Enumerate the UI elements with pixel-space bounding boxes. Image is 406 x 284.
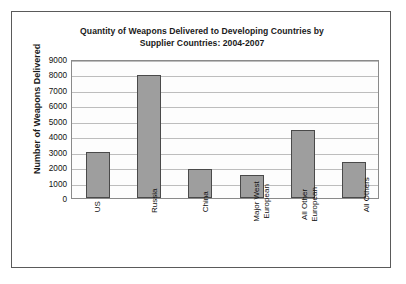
x-axis-tick-label: Major WestEuropean <box>225 201 276 265</box>
y-axis-tick-label: 5000 <box>49 117 67 126</box>
chart-figure: Quantity of Weapons Delivered to Develop… <box>11 11 391 268</box>
x-axis-tick-label: All OtherEuropean <box>276 201 327 265</box>
y-axis-tick-label: 9000 <box>49 56 67 65</box>
x-axis-tick-label: US <box>71 201 122 265</box>
y-axis-tick-label: 3000 <box>49 148 67 157</box>
y-axis-tick-label: 2000 <box>49 164 67 173</box>
bar <box>137 75 161 198</box>
x-axis-tick-label: All Others <box>328 201 379 265</box>
y-axis-tick-label: 7000 <box>49 86 67 95</box>
chart-title-line-2: Supplier Countries: 2004-2007 <box>30 38 374 50</box>
y-axis-tick-label: 0 <box>62 195 67 204</box>
x-axis-tick-label: Russia <box>122 201 173 265</box>
x-axis-tick-labels: USRussiaChinaMajor WestEuropeanAll Other… <box>71 201 379 267</box>
bar-series <box>72 61 378 198</box>
y-axis-tick-label: 8000 <box>49 71 67 80</box>
chart-title-line-1: Quantity of Weapons Delivered to Develop… <box>80 26 324 36</box>
chart-title: Quantity of Weapons Delivered to Develop… <box>30 26 374 49</box>
x-axis-tick-label: China <box>174 201 225 265</box>
bar <box>86 152 110 198</box>
y-axis-tick-labels: 9000800070006000500040003000200010000 <box>30 60 67 199</box>
y-axis-tick-label: 4000 <box>49 133 67 142</box>
y-axis-tick-label: 1000 <box>49 179 67 188</box>
plot-area <box>71 60 379 199</box>
y-axis-tick-label: 6000 <box>49 102 67 111</box>
